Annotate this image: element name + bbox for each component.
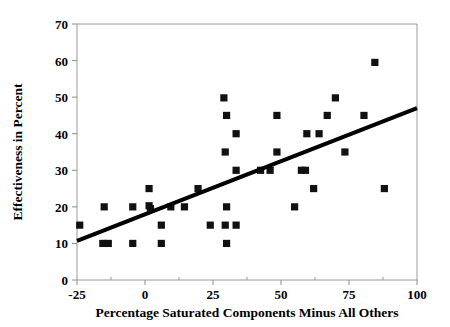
y-tick-label: 70 bbox=[55, 17, 68, 32]
data-point-marker bbox=[233, 222, 240, 229]
y-tick-label: 40 bbox=[55, 127, 68, 142]
data-point-marker bbox=[145, 185, 152, 192]
data-point-marker bbox=[158, 240, 165, 247]
data-point-marker bbox=[101, 203, 108, 210]
data-point-marker bbox=[223, 112, 230, 119]
data-point-marker bbox=[223, 203, 230, 210]
data-point-marker bbox=[341, 148, 348, 155]
regression-line bbox=[77, 108, 417, 241]
data-point-marker bbox=[129, 203, 136, 210]
y-tick-label: 20 bbox=[55, 200, 68, 215]
y-tick-label: 10 bbox=[55, 236, 68, 251]
data-point-marker bbox=[310, 185, 317, 192]
data-points-group bbox=[76, 59, 388, 247]
y-axis-title: Effectiveness in Percent bbox=[10, 83, 25, 220]
data-point-marker bbox=[223, 240, 230, 247]
data-point-marker bbox=[207, 222, 214, 229]
data-point-marker bbox=[291, 203, 298, 210]
y-tick-label: 0 bbox=[62, 273, 69, 288]
plot-frame bbox=[77, 24, 417, 280]
data-point-marker bbox=[222, 222, 229, 229]
data-point-marker bbox=[181, 203, 188, 210]
data-point-marker bbox=[381, 185, 388, 192]
data-point-marker bbox=[220, 94, 227, 101]
x-axis-ticks: -250255075100 bbox=[68, 280, 426, 302]
x-tick-label: -25 bbox=[68, 287, 86, 302]
x-tick-label: 75 bbox=[343, 287, 357, 302]
y-axis-ticks: 010203040506070 bbox=[55, 17, 77, 288]
y-tick-label: 50 bbox=[55, 90, 68, 105]
y-tick-label: 30 bbox=[55, 163, 68, 178]
data-point-marker bbox=[233, 167, 240, 174]
data-point-marker bbox=[303, 130, 310, 137]
data-point-marker bbox=[222, 148, 229, 155]
data-point-marker bbox=[76, 222, 83, 229]
x-tick-label: 100 bbox=[407, 287, 427, 302]
x-tick-label: 25 bbox=[207, 287, 221, 302]
data-point-marker bbox=[105, 240, 112, 247]
data-point-marker bbox=[129, 240, 136, 247]
data-point-marker bbox=[273, 112, 280, 119]
y-tick-label: 60 bbox=[55, 54, 68, 69]
x-axis-title: Percentage Saturated Components Minus Al… bbox=[95, 305, 398, 320]
data-point-marker bbox=[315, 130, 322, 137]
data-point-marker bbox=[324, 112, 331, 119]
data-point-marker bbox=[233, 130, 240, 137]
data-point-marker bbox=[360, 112, 367, 119]
data-point-marker bbox=[302, 167, 309, 174]
data-point-marker bbox=[273, 148, 280, 155]
x-tick-label: 0 bbox=[142, 287, 149, 302]
scatter-plot-canvas: 010203040506070 -250255075100 Percentage… bbox=[0, 0, 450, 327]
data-point-marker bbox=[332, 94, 339, 101]
data-point-marker bbox=[371, 59, 378, 66]
x-tick-label: 50 bbox=[275, 287, 288, 302]
data-point-marker bbox=[158, 222, 165, 229]
scatter-plot-figure: 010203040506070 -250255075100 Percentage… bbox=[0, 0, 450, 327]
